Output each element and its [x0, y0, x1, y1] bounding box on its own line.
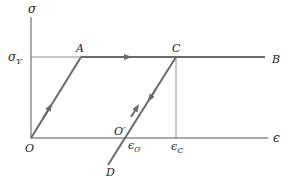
arrow-OA	[43, 107, 50, 119]
sigma-axis-label: σ	[28, 2, 37, 16]
sigma-y-label: σY	[8, 50, 22, 66]
arrow-CO-prime	[150, 89, 156, 99]
stress-strain-diagram: σ ϵ σY A C B O O′ D ϵO′ ϵC	[0, 0, 288, 178]
point-O-label: O	[25, 142, 34, 155]
point-O-prime-label: O′	[114, 125, 126, 138]
point-C-label: C	[172, 42, 181, 55]
point-B-label: B	[271, 53, 280, 66]
unloading-path-CD	[108, 57, 176, 165]
eps-O-prime-label: ϵO′	[128, 139, 142, 154]
point-D-label: D	[105, 166, 115, 178]
arrow-reload	[131, 108, 137, 118]
eps-C-label: ϵC	[171, 140, 183, 155]
loading-path-OA	[31, 57, 81, 138]
epsilon-axis-label: ϵ	[273, 131, 280, 145]
point-A-label: A	[75, 42, 84, 55]
